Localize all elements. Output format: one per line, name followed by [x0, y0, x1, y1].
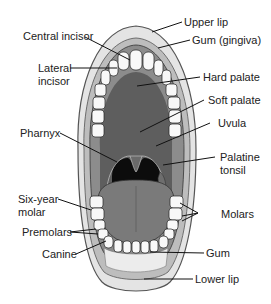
label-pharynx: Pharnyx [20, 127, 60, 139]
label-molars: Molars [221, 208, 254, 220]
label-lateral-incisor-line2: incisor [38, 75, 70, 87]
label-upper-lip: Upper lip [184, 16, 228, 28]
label-premolars: Premolars [22, 226, 72, 238]
label-central-incisor: Central incisor [23, 30, 93, 42]
label-uvula: Uvula [218, 117, 246, 129]
label-lateral-incisor-line1: Lateral [38, 62, 72, 74]
label-palatine-tonsil-line2: tonsil [220, 164, 246, 176]
label-soft-palate: Soft palate [208, 94, 261, 106]
label-palatine-tonsil-line1: Palatine [220, 151, 260, 163]
label-six-year-molar-line2: molar [18, 206, 46, 218]
label-gum-gingiva: Gum (gingiva) [192, 34, 261, 46]
label-lower-lip: Lower lip [195, 273, 239, 285]
label-hard-palate: Hard palate [203, 71, 260, 83]
label-canine: Canine [42, 248, 77, 260]
label-six-year-molar-line1: Six-year [18, 193, 58, 205]
label-gum: Gum [206, 247, 230, 259]
